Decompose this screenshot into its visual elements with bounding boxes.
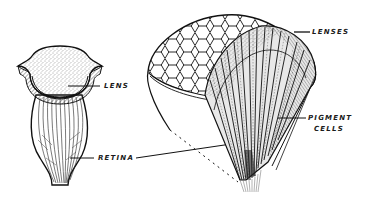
label-pigment: PIGMENT [308, 114, 352, 122]
label-lens: LENS [104, 82, 129, 90]
label-retina: RETINA [98, 154, 134, 162]
compound-eye [140, 10, 316, 192]
label-lenses: LENSES [312, 28, 349, 36]
label-cells: CELLS [314, 125, 344, 133]
eye-diagram: LENS RETINA LENSES PIGMENT CELLS [0, 0, 366, 198]
